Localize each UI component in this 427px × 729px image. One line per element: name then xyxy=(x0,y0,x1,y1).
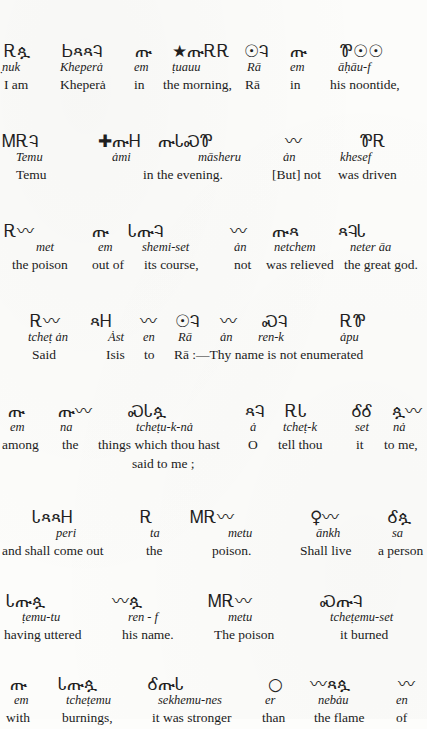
hieroglyph-group: 〰 xyxy=(285,133,302,150)
hieroglyph-group: Ꮄጷ xyxy=(388,509,411,526)
transliteration-word: ȧn xyxy=(220,330,233,345)
transliteration-word: met xyxy=(36,240,54,255)
translation-word: of xyxy=(396,710,407,726)
transliteration-word: sa xyxy=(392,526,403,541)
transliteration-word: metu xyxy=(228,526,252,541)
transliteration-word: ren - f xyxy=(128,610,158,625)
transliteration-row: emnatcheṭu-k-nȧȧtcheṭ-ksetnȧ xyxy=(0,420,427,437)
translation-row: Temuin the evening.[But] notwas driven xyxy=(0,167,427,186)
translation-word: the great god. xyxy=(344,257,418,273)
transliteration-word: tcheṭemu-set xyxy=(330,610,393,625)
translation-row: the poisonout ofits course,notwas reliev… xyxy=(0,257,427,276)
hieroglyph-group: ጡ xyxy=(135,43,152,60)
translation-word: it xyxy=(356,437,364,453)
transliteration-row: metemshemi-setȧnnetchemneter āa xyxy=(0,240,427,257)
translation-word: to xyxy=(144,347,155,363)
translation-word: the poison xyxy=(12,257,68,273)
translation-word: among xyxy=(2,437,39,453)
hieroglyph-group: ጷ〰 xyxy=(392,403,422,420)
hieroglyph-group: 〰ጻጷ xyxy=(310,676,350,693)
hieroglyph-row: ᎡጷᏏጻጻᎸጡ★ጡᎡᎡ☉ᎸጡᏈ☉☉ xyxy=(0,22,427,60)
transliteration-word: sekhemu-nes xyxy=(158,693,222,708)
translation-word: his name. xyxy=(122,627,174,643)
hieroglyph-group: ጻᎸᏓ xyxy=(338,223,366,240)
translation-word: Said xyxy=(32,347,56,363)
hieroglyph-group: Ꭱ〰 xyxy=(4,223,34,240)
translation-row: SaidIsistoRā :—Thy name is not enumerate… xyxy=(0,347,427,366)
transliteration-word: em xyxy=(10,420,25,435)
hieroglyph-group: 〰 xyxy=(220,313,237,330)
text-block: ᎡጷᏏጻጻᎸጡ★ጡᎡᎡ☉ᎸጡᏈ☉☉̣nukKheperȧemṭuauuRāemā… xyxy=(0,22,427,96)
running-head: 551 RĀ AND ISIS xyxy=(0,0,427,8)
hieroglyph-group: 〰ጷ xyxy=(112,593,142,610)
transliteration-row: ̣nukKheperȧemṭuauuRāemāḥāu-f xyxy=(0,60,427,77)
translation-row: and shall come outthepoison.Shall livea … xyxy=(0,543,427,562)
transliteration-word: em xyxy=(134,60,149,75)
hieroglyph-group: ☉Ꮈ xyxy=(175,313,199,330)
translation-row: I amKheperȧinthe morning,Rāinhis noontid… xyxy=(0,77,427,96)
translation-word: burnings, xyxy=(62,710,113,726)
translation-word: the morning, xyxy=(163,77,232,93)
translation-word: was driven xyxy=(338,167,397,183)
transliteration-word: em xyxy=(14,693,29,708)
translation-word: out of xyxy=(92,257,124,273)
hieroglyph-group: ᏓጻጻᎻ xyxy=(32,509,72,526)
hieroglyph-row: ᏓጻጻᎻᎡᎷᎡ〰♀〰Ꮄጷ xyxy=(0,488,427,526)
transliteration-word: Rā xyxy=(178,330,192,345)
hieroglyph-group: ጡ xyxy=(290,43,307,60)
translation-word: things which thou hast xyxy=(98,437,220,453)
hieroglyph-group: ᎡᏈ xyxy=(340,313,366,330)
transliteration-word: tcheṭemu xyxy=(66,693,111,708)
translation-word: and shall come out xyxy=(2,543,104,559)
hieroglyph-group: ጻᎸ xyxy=(245,403,264,420)
translation-word: I am xyxy=(4,77,28,93)
translation-word: having uttered xyxy=(4,627,82,643)
hieroglyph-group: Ꮣጡጷ xyxy=(6,593,45,610)
transliteration-row: tcheṭ ȧnȦstenRāȧnren-kȧpu xyxy=(0,330,427,347)
transliteration-word: metu xyxy=(228,610,252,625)
hieroglyph-group: ᏓጡᎸ xyxy=(128,223,163,240)
translation-word: than xyxy=(262,710,285,726)
text-block: Ꭱ〰ጡᏓጡᎸ〰ጡጻጻᎸᏓmetemshemi-setȧnnetchemneter… xyxy=(0,202,427,276)
transliteration-word: āḥāu-f xyxy=(338,60,371,75)
transliteration-word: tcheṭu-k-nȧ xyxy=(136,420,193,435)
translation-word: in the evening. xyxy=(143,167,223,183)
transliteration-row: peritametuānkhsa xyxy=(0,526,427,543)
translation-word: was relieved xyxy=(266,257,334,273)
transliteration-word: peri xyxy=(56,526,76,541)
transliteration-row: Temuȧmimāsheruȧnkhesef xyxy=(0,150,427,167)
hieroglyph-group: ○ xyxy=(268,676,283,693)
text-block: ᎷᎡᎸ✚ጡᎻጡᏓᏍᏈ〰ᏈᎡTemuȧmimāsheruȧnkhesefTemui… xyxy=(0,112,427,186)
translation-row: having utteredhis name.The poisonit burn… xyxy=(0,627,427,646)
transliteration-word: ren-k xyxy=(258,330,284,345)
translation-word: poison. xyxy=(212,543,251,559)
transliteration-word: ṭuauu xyxy=(172,60,200,75)
translation-word: the flame xyxy=(314,710,365,726)
hieroglyph-group: Ꭱ xyxy=(140,509,153,526)
running-title: RĀ AND ISIS xyxy=(0,0,427,2)
hieroglyph-group: ጡᏓᏍᏈ xyxy=(158,133,213,150)
translation-word: tell thou xyxy=(278,437,323,453)
hieroglyph-group: ♀〰 xyxy=(310,509,339,526)
hieroglyph-group: Ꭱ〰 xyxy=(30,313,60,330)
translation-word: Temu xyxy=(16,167,47,183)
translation-word: Rā xyxy=(245,77,260,93)
transliteration-word: tcheṭ-k xyxy=(283,420,317,435)
transliteration-word: ṭemu-tu xyxy=(22,610,60,625)
hieroglyph-group: ᎷᎡ〰 xyxy=(208,593,252,610)
transliteration-word: Temu xyxy=(16,150,43,165)
translation-word: Kheperȧ xyxy=(60,77,106,93)
hieroglyph-group: Ꮘ☉☉ xyxy=(340,43,383,60)
transliteration-word: Kheperȧ xyxy=(60,60,103,75)
translation-word: Isis xyxy=(106,347,125,363)
text-block: ጡጡ〰ᏍᏓጷጻᎸᎡᏓᎴᎴጷ〰emnatcheṭu-k-nȧȧtcheṭ-kset… xyxy=(0,382,427,474)
transliteration-word: er xyxy=(265,693,275,708)
hieroglyph-group: ᎴጡᏓ xyxy=(148,676,184,693)
translation-word: to me, xyxy=(384,437,418,453)
hieroglyph-group: ✚ጡᎻ xyxy=(98,133,140,150)
translation-word: O xyxy=(248,437,258,453)
transliteration-word: ta xyxy=(150,526,160,541)
hieroglyph-group: ጡጻ xyxy=(272,223,299,240)
hieroglyph-group: ᏈᎡ xyxy=(360,133,386,150)
